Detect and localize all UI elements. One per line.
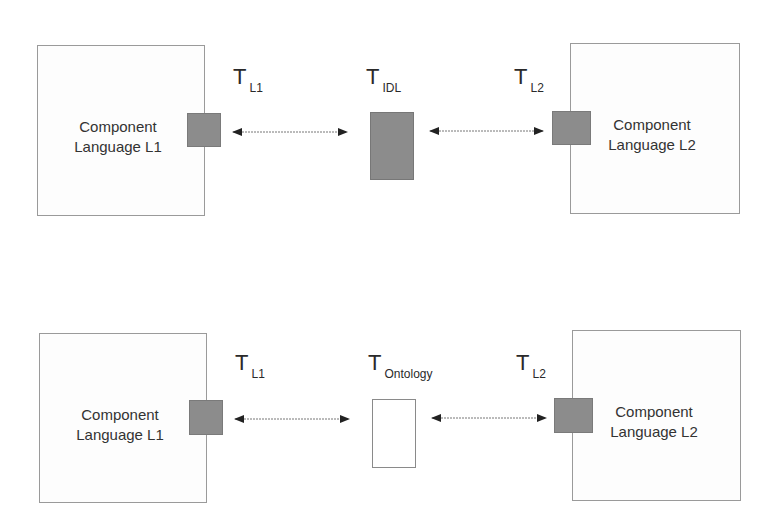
top-left-port [187, 113, 221, 147]
bottom-right-port [554, 398, 593, 433]
bottom-t-ontology-label: TOntology [368, 352, 432, 377]
idl-box [370, 112, 414, 180]
top-t-l1-label: TL1 [233, 66, 263, 91]
bottom-t-l2-label: TL2 [516, 352, 546, 377]
bottom-t-l1-label: TL1 [235, 352, 265, 377]
top-t-idl-label: TIDL [366, 66, 401, 91]
top-right-component-label: Component Language L2 [592, 115, 712, 155]
ontology-box [372, 399, 416, 468]
top-t-l2-label: TL2 [514, 66, 544, 91]
bottom-left-port [189, 400, 223, 435]
bottom-left-component-label: Component Language L1 [60, 405, 180, 445]
top-right-port [552, 111, 591, 145]
top-left-component-label: Component Language L1 [58, 117, 178, 157]
bottom-right-component-label: Component Language L2 [594, 402, 714, 442]
